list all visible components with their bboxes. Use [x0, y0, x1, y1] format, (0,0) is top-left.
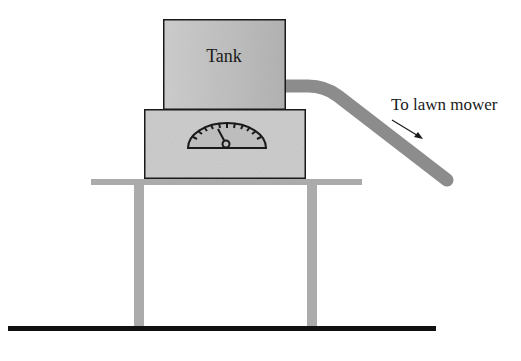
ground-line [8, 326, 436, 331]
destination-label: To lawn mower [391, 95, 498, 114]
table-leg-left [134, 185, 144, 327]
table-leg-right [307, 185, 317, 327]
tank-label: Tank [206, 46, 242, 66]
tank-diagram: Tank To lawn mower [0, 0, 521, 361]
table-top [91, 179, 362, 185]
gauge-pivot [223, 141, 230, 148]
